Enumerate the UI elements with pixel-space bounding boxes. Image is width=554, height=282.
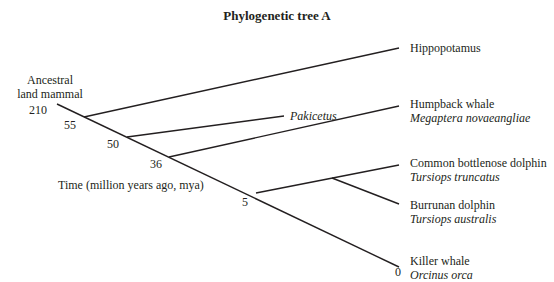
taxon-hippopotamus: Hippopotamus	[410, 41, 481, 55]
time-55: 55	[64, 118, 76, 133]
taxon-scientific-name: Pakicetus	[290, 109, 337, 123]
time-root: 210	[29, 103, 47, 118]
time-0: 0	[395, 265, 401, 280]
branch-pakicetus	[127, 116, 284, 137]
taxon-humpback-whale: Humpback whale Megaptera novaeangliae	[410, 97, 530, 125]
taxon-common-name: Common bottlenose dolphin	[410, 156, 547, 170]
branch-burrunan	[332, 178, 399, 204]
taxon-pakicetus: Pakicetus	[290, 109, 337, 123]
taxon-scientific-name: Tursiops australis	[410, 212, 496, 226]
root-label: Ancestral land mammal	[6, 73, 94, 101]
time-36: 36	[150, 157, 162, 172]
time-5: 5	[242, 195, 248, 210]
branch-dolphins	[256, 165, 399, 193]
taxon-common-name: Humpback whale	[410, 97, 494, 111]
taxon-scientific-name: Megaptera novaeangliae	[410, 111, 530, 125]
taxon-burrunan-dolphin: Burrunan dolphin Tursiops australis	[410, 198, 496, 226]
taxon-scientific-name: Tursiops truncatus	[410, 170, 547, 184]
root-label-line1: Ancestral	[27, 73, 73, 87]
taxon-common-name: Burrunan dolphin	[410, 198, 495, 212]
taxon-common-name: Killer whale	[410, 254, 470, 268]
time-axis-label: Time (million years ago, mya)	[58, 178, 204, 192]
branch-hippopotamus	[84, 48, 399, 117]
taxon-scientific-name: Orcinus orca	[410, 268, 473, 282]
branch-humpback	[169, 106, 399, 157]
taxon-common-name: Hippopotamus	[410, 41, 481, 55]
root-label-line2: land mammal	[17, 87, 83, 101]
taxon-common-bottlenose-dolphin: Common bottlenose dolphin Tursiops trunc…	[410, 156, 547, 184]
time-50: 50	[107, 137, 119, 152]
taxon-killer-whale: Killer whale Orcinus orca	[410, 254, 473, 282]
